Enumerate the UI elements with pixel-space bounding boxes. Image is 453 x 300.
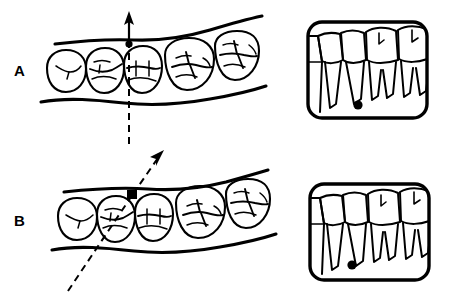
beam-path-b (68, 194, 133, 291)
radiograph-film-b (306, 184, 432, 280)
tooth-a-2 (86, 48, 124, 93)
radiograph-film-a (304, 22, 430, 118)
buccal-ridge-line-a (55, 16, 262, 44)
tooth-b-4 (176, 186, 225, 238)
tooth-b-1 (58, 198, 97, 240)
radiograph-a-content (304, 26, 430, 112)
dental-radiography-figure: A B (0, 0, 453, 300)
beam-entry-dot-a (125, 40, 132, 47)
tooth-a-5 (215, 31, 259, 80)
film-reference-dot-b (347, 260, 356, 269)
radiograph-b-content (306, 188, 432, 274)
figure-artwork (0, 0, 453, 300)
tooth-b-5 (226, 179, 270, 228)
film-reference-dot-a (353, 100, 362, 109)
tooth-a-4 (165, 38, 214, 90)
panel-b-occlusal-view (52, 150, 276, 291)
beam-arrowhead-b (150, 150, 164, 166)
tooth-a-1 (47, 50, 86, 92)
panel-a-occlusal-view (41, 11, 266, 144)
tooth-b-3 (135, 194, 173, 241)
beam-entry-marker-b (127, 190, 137, 199)
